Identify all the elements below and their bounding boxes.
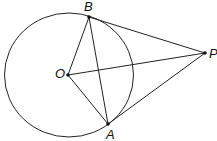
segment-ob xyxy=(68,17,89,75)
segment-oa xyxy=(68,75,108,124)
label-b: B xyxy=(84,0,93,14)
point-o xyxy=(66,73,70,77)
label-a: A xyxy=(105,127,115,141)
label-o: O xyxy=(55,66,65,81)
point-p xyxy=(203,51,207,55)
point-a xyxy=(106,122,110,126)
label-p: P xyxy=(209,46,217,61)
segment-ab xyxy=(89,17,108,124)
segment-pb xyxy=(89,17,205,53)
point-b xyxy=(87,15,91,19)
segment-po xyxy=(68,53,205,75)
geometry-diagram: B O A P xyxy=(0,0,217,141)
segment-pa xyxy=(108,53,205,124)
